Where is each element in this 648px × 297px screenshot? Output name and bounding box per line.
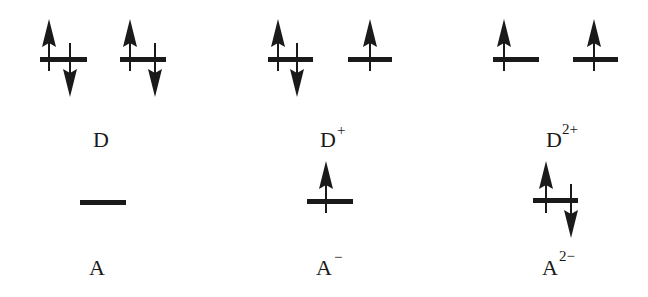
label-a-minus: A: [316, 255, 332, 280]
orbital-level: [80, 200, 126, 205]
state-d: D: [40, 19, 166, 152]
orbital-level: [348, 19, 392, 71]
spin-up-arrow-icon: [363, 19, 377, 71]
label-d-2plus: D: [546, 127, 562, 152]
charge-a-2minus: 2−: [559, 248, 575, 264]
state-a: A: [80, 200, 126, 280]
spin-down-arrow-icon: [148, 43, 162, 97]
spin-up-arrow-icon: [123, 19, 137, 71]
label-a-2minus: A: [542, 255, 558, 280]
spin-up-arrow-icon: [497, 19, 511, 71]
state-d-plus: D +: [268, 19, 392, 152]
charge-a-minus: −: [334, 249, 342, 265]
state-d-2plus: D 2+: [493, 19, 618, 152]
orbital-level: [533, 161, 578, 238]
orbital-level: [493, 19, 539, 71]
label-d: D: [93, 127, 109, 152]
spin-down-arrow-icon: [564, 184, 578, 238]
state-a-2minus: A 2−: [533, 161, 578, 280]
orbital-level: [307, 161, 353, 213]
state-a-minus: A −: [307, 161, 353, 280]
spin-up-arrow-icon: [271, 19, 285, 71]
label-a: A: [89, 255, 105, 280]
electron-configuration-diagram: D D + D 2+ A: [0, 0, 648, 297]
orbital-level: [40, 19, 87, 97]
charge-d-2plus: 2+: [562, 121, 578, 137]
spin-up-arrow-icon: [539, 161, 553, 213]
spin-up-arrow-icon: [319, 161, 333, 213]
spin-down-arrow-icon: [63, 43, 77, 97]
spin-up-arrow-icon: [587, 19, 601, 71]
charge-d-plus: +: [337, 122, 345, 138]
label-d-plus: D: [320, 127, 336, 152]
orbital-level: [120, 19, 166, 97]
orbital-level: [268, 19, 313, 97]
spin-up-arrow-icon: [42, 19, 56, 71]
orbital-level: [573, 19, 618, 71]
spin-down-arrow-icon: [290, 43, 304, 97]
